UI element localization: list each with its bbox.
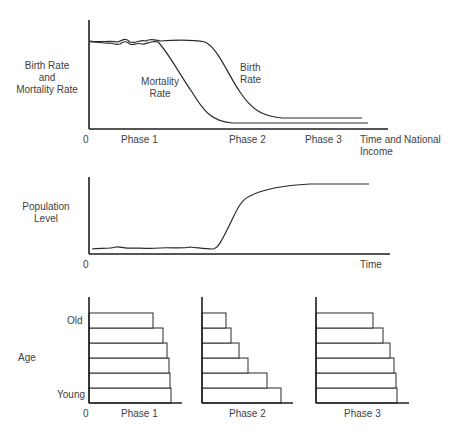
age-bar (202, 388, 281, 403)
birth-label-line: Birth (240, 62, 261, 74)
phase-2-label: Phase 2 (229, 134, 266, 146)
phase-1-label: Phase 1 (121, 134, 158, 146)
birth-rate-label: Birth Rate (240, 62, 261, 86)
young-label: Young (57, 389, 85, 401)
mortality-rate-label: Mortality Rate (135, 76, 185, 100)
population-x-label: Time (360, 259, 382, 271)
age-bar (316, 373, 396, 388)
age-bar (89, 373, 170, 388)
population-chart (89, 177, 390, 254)
age-bar (316, 313, 373, 328)
age-bar (202, 373, 267, 388)
population-origin-label: 0 (83, 259, 89, 271)
age-pyramid-phase-3 (316, 297, 409, 403)
rates-origin-label: 0 (83, 134, 89, 146)
rates-y-label-line: and (12, 72, 82, 84)
pyramid-phase-2-label: Phase 2 (229, 408, 266, 420)
age-bar (202, 328, 231, 343)
population-y-label-line: Level (20, 213, 72, 225)
rates-x-label-line: Time and National (360, 134, 441, 146)
rates-x-label-line: Income (360, 146, 441, 158)
age-bar (202, 313, 226, 328)
mortality-rate-curve (90, 42, 368, 123)
rates-chart (89, 20, 388, 129)
age-origin-label: 0 (83, 408, 89, 420)
population-curve (92, 184, 369, 249)
age-bar (202, 358, 248, 373)
rates-x-label: Time and National Income (360, 134, 441, 158)
age-bar (89, 388, 171, 403)
population-y-label: Population Level (20, 201, 72, 225)
old-label: Old (67, 315, 83, 327)
age-bar (202, 343, 239, 358)
population-y-label-line: Population (20, 201, 72, 213)
age-bar (89, 358, 169, 373)
pyramid-phase-1-label: Phase 1 (121, 408, 158, 420)
age-bar (316, 343, 390, 358)
birth-rate-curve (90, 39, 362, 118)
age-pyramid-phase-1 (89, 297, 182, 403)
rates-y-label-line: Birth Rate (12, 60, 82, 72)
birth-label-line: Rate (240, 74, 261, 86)
age-bar (89, 313, 153, 328)
phase-3-label: Phase 3 (305, 134, 342, 146)
mortality-label-line: Rate (135, 88, 185, 100)
pyramid-phase-3-label: Phase 3 (344, 408, 381, 420)
age-bar (316, 388, 397, 403)
rates-y-label: Birth Rate and Mortality Rate (12, 60, 82, 96)
age-bar (89, 328, 163, 343)
age-y-label: Age (18, 352, 36, 364)
rates-y-label-line: Mortality Rate (12, 84, 82, 96)
age-bar (316, 358, 394, 373)
age-bar (89, 343, 167, 358)
mortality-label-line: Mortality (135, 76, 185, 88)
age-bar (316, 328, 383, 343)
age-pyramid-phase-2 (202, 297, 293, 403)
